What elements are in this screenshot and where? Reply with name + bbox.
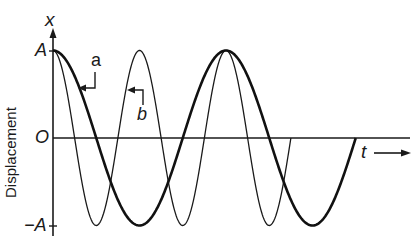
t-arrow-icon [401, 150, 411, 157]
amplitude-negative-label: −A [24, 215, 47, 236]
displacement-time-graph: x A O −A t a b Displacement [0, 0, 414, 249]
curve-b-label: b [137, 104, 147, 125]
t-axis-symbol: t [361, 141, 366, 163]
origin-label: O [35, 127, 49, 148]
curve-a-label: a [91, 50, 101, 71]
pointer-b-arrow-icon [127, 87, 135, 94]
graph-canvas [0, 0, 414, 249]
amplitude-positive-label: A [35, 40, 47, 61]
y-axis-symbol: x [45, 9, 55, 31]
y-axis-label: Displacement [2, 107, 19, 198]
